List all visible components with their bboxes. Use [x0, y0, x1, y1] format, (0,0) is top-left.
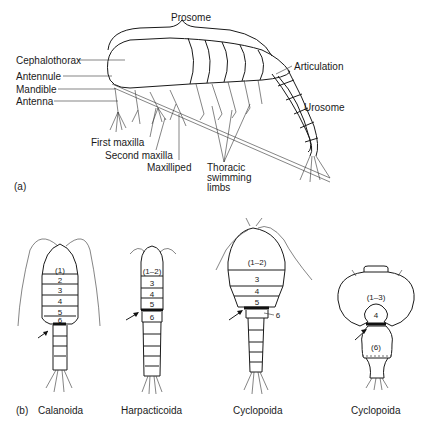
- panel-a-tag: (a): [14, 181, 26, 192]
- segment-label: 4: [52, 297, 68, 306]
- label-prosome: Prosome: [171, 12, 211, 23]
- segment-label: 6: [142, 313, 162, 322]
- label-urosome: Urosome: [304, 102, 345, 113]
- segment-label: 6: [273, 311, 283, 320]
- segment-label: 5: [246, 298, 268, 307]
- segment-label: 3: [52, 286, 68, 295]
- segment-label: 5: [142, 300, 162, 309]
- label-antennule: Antennule: [16, 71, 61, 82]
- segment-label: 4: [142, 290, 162, 299]
- segment-label: (1–2): [142, 267, 162, 276]
- label-maxilliped: Maxilliped: [147, 162, 191, 173]
- segment-label: 3: [246, 275, 268, 284]
- cyclopoida-dorsal-2: [338, 266, 414, 390]
- label-cyclopoida-1: Cyclopoida: [233, 405, 282, 416]
- segment-label: 4: [366, 311, 386, 320]
- segment-label: (1): [52, 266, 68, 275]
- segment-label: 2: [52, 276, 68, 285]
- label-second-maxilla: Second maxilla: [105, 150, 173, 161]
- segment-label: 4: [246, 287, 268, 296]
- arrow-icon: [133, 312, 139, 317]
- label-antenna: Antenna: [16, 96, 53, 107]
- segment-label: (1–2): [246, 258, 268, 267]
- segment-label: (6): [366, 343, 386, 352]
- prosome-bracket: [108, 20, 272, 56]
- panel-b-tag: (b): [16, 405, 28, 416]
- label-cephalothorax: Cephalothorax: [16, 55, 81, 66]
- segment-label: (1–3): [364, 293, 388, 302]
- label-articulation: Articulation: [294, 61, 343, 72]
- label-first-maxilla: First maxilla: [91, 137, 144, 148]
- segment-label: 6: [52, 316, 68, 325]
- label-calanoida: Calanoida: [38, 405, 83, 416]
- label-harpacticoida: Harpacticoida: [121, 405, 182, 416]
- lateral-view-copepod: [54, 20, 330, 182]
- label-cyclopoida-2: Cyclopoida: [351, 405, 400, 416]
- label-thoracic-3: limbs: [207, 182, 230, 193]
- label-mandible: Mandible: [16, 84, 57, 95]
- segment-label: 3: [142, 279, 162, 288]
